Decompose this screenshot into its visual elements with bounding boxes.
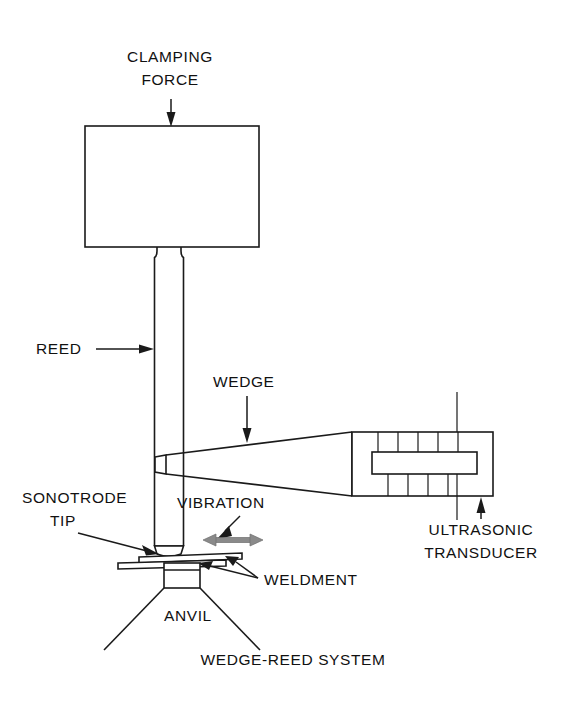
diagram-canvas: CLAMPING FORCE REED bbox=[0, 0, 587, 705]
wedge-leader-arrow-head bbox=[243, 428, 252, 443]
sonotrode-tip-leader-shaft bbox=[78, 533, 147, 551]
vibration-arrow bbox=[203, 534, 263, 546]
anvil-label: ANVIL bbox=[164, 607, 212, 624]
sonotrode-tip-label-line2: TIP bbox=[50, 512, 76, 529]
clamping-head-block bbox=[85, 126, 259, 247]
sonotrode-tip-label-line1: SONOTRODE bbox=[22, 489, 127, 506]
sonotrode-tip-label-group: SONOTRODE TIP bbox=[22, 489, 159, 556]
reed-label: REED bbox=[36, 340, 81, 357]
wedge-body bbox=[155, 432, 352, 496]
ultrasonic-transducer-label-line2: TRANSDUCER bbox=[424, 544, 538, 561]
clamping-force-label-group: CLAMPING FORCE bbox=[127, 48, 213, 127]
transducer-inner-bar bbox=[372, 452, 477, 474]
figure-caption: WEDGE-REED SYSTEM bbox=[200, 651, 385, 668]
ultrasonic-transducer-body bbox=[352, 392, 493, 520]
reed-label-group: REED bbox=[36, 340, 154, 357]
vibration-label-group: VIBRATION bbox=[177, 494, 265, 539]
weldment-label: WELDMENT bbox=[264, 571, 358, 588]
weldment-leader-arrow-head-2 bbox=[225, 556, 239, 566]
clamping-force-label-line1: CLAMPING bbox=[127, 48, 213, 65]
ultrasonic-transducer-leader-arrow-head bbox=[477, 497, 486, 513]
clamping-force-arrow-head bbox=[167, 112, 176, 127]
ultrasonic-transducer-label-line1: ULTRASONIC bbox=[429, 521, 534, 538]
wedge-label-group: WEDGE bbox=[213, 373, 275, 443]
ultrasonic-transducer-label-group: ULTRASONIC TRANSDUCER bbox=[424, 497, 538, 561]
wedge-reed-diagram: CLAMPING FORCE REED bbox=[0, 0, 587, 705]
clamping-force-label-line2: FORCE bbox=[141, 71, 198, 88]
vibration-leader-arrow-head bbox=[217, 526, 232, 539]
vibration-label: VIBRATION bbox=[177, 494, 265, 511]
reed-leader-arrow-head bbox=[139, 345, 154, 354]
wedge-label: WEDGE bbox=[213, 373, 275, 390]
